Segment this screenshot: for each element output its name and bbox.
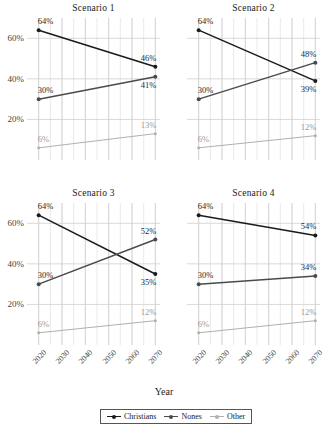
y-tick-label: 60% [0,33,24,43]
data-point-other [314,319,317,322]
data-point-other [197,331,200,334]
data-point-other [197,146,200,149]
data-point-nones [37,282,41,286]
panel-1: Scenario 164%46%30%41%6%13% [27,3,160,160]
data-point-christians [197,213,201,217]
data-point-christians [37,28,41,32]
legend-label: Other [227,412,245,421]
data-label: 12% [301,122,317,132]
data-label: 48% [301,49,317,59]
data-point-christians [153,272,157,276]
data-point-nones [197,282,201,286]
legend-label: Christians [124,412,156,421]
panel-3: Scenario 364%35%30%52%6%12% [27,188,160,345]
legend-marker-icon [164,413,178,420]
x-tick-label: 2060 [121,348,142,369]
x-tick-label: 2030 [211,348,232,369]
data-point-nones [313,61,317,65]
x-tick-label: 2020 [28,348,49,369]
panel-4: Scenario 464%54%30%34%6%12% [187,188,320,345]
y-tick-label: 40% [0,259,24,269]
data-label: 54% [301,221,317,231]
faceted-line-chart: Scenario 164%46%30%41%6%13%Scenario 264%… [0,0,328,437]
legend-label: Nones [181,412,201,421]
y-tick-label: 60% [0,218,24,228]
data-label: 12% [301,307,317,317]
x-tick-label: 2070 [144,348,165,369]
data-label: 46% [141,53,157,63]
data-label: 30% [198,85,214,95]
legend-marker-icon [107,413,121,420]
data-label: 35% [141,277,157,287]
data-label: 39% [301,84,317,94]
data-point-other [154,132,157,135]
legend-item-nones[interactable]: Nones [164,412,201,421]
data-label: 30% [198,270,214,280]
data-point-nones [313,274,317,278]
data-label: 30% [38,85,54,95]
data-label: 6% [198,319,209,329]
x-axis-title: Year [0,386,328,397]
y-tick-label: 40% [0,74,24,84]
gridlines-minor [199,203,316,345]
data-point-christians [313,233,317,237]
data-label: 64% [38,201,54,211]
data-point-christians [313,79,317,83]
legend-item-christians[interactable]: Christians [107,412,156,421]
data-point-other [314,134,317,137]
data-point-christians [37,213,41,217]
y-tick-label: 20% [0,114,24,124]
data-label: 34% [301,262,317,272]
data-point-other [37,331,40,334]
x-tick-label: 2040 [234,348,255,369]
data-label: 13% [141,120,157,130]
y-tick-label: 20% [0,299,24,309]
legend-item-other[interactable]: Other [210,412,245,421]
x-tick-label: 2070 [304,348,325,369]
data-label: 64% [198,16,214,26]
x-tick-label: 2020 [188,348,209,369]
data-point-nones [37,97,41,101]
x-tick-label: 2040 [74,348,95,369]
data-point-nones [153,75,157,79]
legend: ChristiansNonesOther [100,409,252,424]
data-point-nones [153,238,157,242]
data-label: 12% [141,307,157,317]
gridlines-minor [39,18,156,160]
data-label: 6% [38,319,49,329]
gridlines-minor [199,18,316,160]
data-point-other [37,146,40,149]
panel-title: Scenario 2 [187,3,320,13]
data-label: 64% [38,16,54,26]
data-point-christians [197,28,201,32]
data-point-nones [197,97,201,101]
data-label: 52% [141,226,157,236]
data-label: 41% [141,80,157,90]
data-point-christians [153,65,157,69]
data-label: 64% [198,201,214,211]
panel-2: Scenario 264%39%30%48%6%12% [187,3,320,160]
data-point-other [154,319,157,322]
panel-title: Scenario 4 [187,188,320,198]
data-label: 6% [38,134,49,144]
panel-title: Scenario 3 [27,188,160,198]
data-label: 30% [38,270,54,280]
data-label: 6% [198,134,209,144]
panel-title: Scenario 1 [27,3,160,13]
x-tick-label: 2030 [51,348,72,369]
x-tick-label: 2060 [281,348,302,369]
x-tick-label: 2050 [258,348,279,369]
legend-marker-icon [210,413,224,420]
x-tick-label: 2050 [98,348,119,369]
